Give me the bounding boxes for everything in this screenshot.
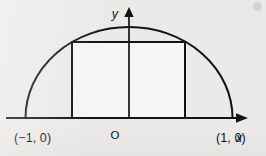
left-endpoint-label: (−1, 0) <box>14 131 51 145</box>
origin-label: O <box>111 129 120 141</box>
figure-canvas: y x O (−1, 0) (1, 0) <box>0 0 266 156</box>
y-axis-label: y <box>111 7 119 21</box>
semicircle-rectangle-diagram: y x O (−1, 0) (1, 0) <box>0 0 266 156</box>
y-axis-arrow-icon <box>124 7 133 17</box>
x-axis-arrow-icon <box>236 113 248 123</box>
right-endpoint-label: (1, 0) <box>216 131 246 145</box>
